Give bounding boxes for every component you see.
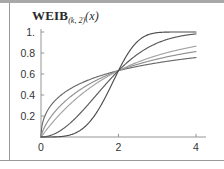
page-rule-bottom [0,160,224,161]
figure-page: WEIB(k, 2)(x) 0240.20.40.60.81. [0,0,224,169]
curve-series [41,32,196,137]
y-tick-label: 0.6 [20,68,35,80]
y-tick-label: 1. [26,26,35,38]
curve-series [41,34,196,137]
y-tick-label: 0.4 [20,89,35,101]
axes [41,29,206,137]
x-tick-label: 0 [38,141,44,153]
plot-area: 0240.20.40.60.81. [10,3,224,160]
curve-series-group [41,32,196,137]
curve-series [41,46,196,137]
x-tick-label: 4 [193,141,199,153]
y-tick-label: 0.2 [20,110,35,122]
x-tick-label: 2 [116,141,122,153]
curve-series [41,52,196,137]
weibull-cdf-figure: WEIB(k, 2)(x) 0240.20.40.60.81. [10,3,224,160]
y-tick-label: 0.8 [20,47,35,59]
